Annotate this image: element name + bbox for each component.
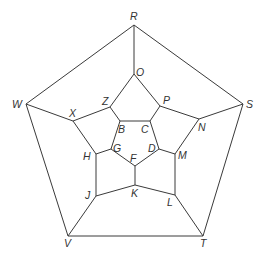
vertex-label-X: X — [68, 107, 77, 119]
edge-O-Z — [110, 74, 134, 107]
edge-W-X — [26, 104, 73, 121]
vertex-label-R: R — [130, 10, 138, 22]
edge-M-D — [159, 149, 175, 154]
vertex-label-O: O — [136, 66, 144, 78]
vertex-label-G: G — [113, 142, 121, 154]
edge-V-J — [68, 196, 96, 236]
edge-T-L — [175, 195, 203, 236]
vertex-label-T: T — [200, 237, 208, 249]
vertex-labels: ROZPBCGDFXNHMJKLWSVT — [12, 10, 253, 249]
edge-P-C — [150, 106, 160, 121]
vertex-label-S: S — [246, 98, 253, 110]
edge-P-N — [160, 106, 199, 119]
vertex-label-H: H — [83, 150, 91, 162]
vertex-label-F: F — [130, 152, 137, 164]
vertex-label-B: B — [118, 123, 125, 135]
vertex-label-L: L — [167, 196, 173, 208]
vertex-label-N: N — [198, 121, 206, 133]
vertex-label-M: M — [178, 149, 187, 161]
graph-edges — [26, 25, 243, 236]
edge-H-G — [96, 149, 111, 154]
vertex-label-Z: Z — [101, 95, 109, 107]
vertex-label-V: V — [64, 237, 72, 249]
edge-S-T — [203, 104, 243, 236]
edge-V-W — [26, 104, 68, 236]
vertex-label-K: K — [131, 187, 139, 199]
edge-K-L — [135, 185, 175, 195]
vertex-label-W: W — [12, 98, 23, 110]
vertex-label-J: J — [84, 189, 91, 201]
edge-S-N — [199, 104, 243, 119]
edge-R-S — [134, 25, 243, 104]
vertex-label-P: P — [163, 94, 170, 106]
dodecahedron-graph: ROZPBCGDFXNHMJKLWSVT — [0, 0, 268, 259]
edge-R-W — [26, 25, 134, 104]
edge-Z-X — [73, 107, 110, 121]
edge-O-P — [134, 74, 160, 106]
vertex-label-C: C — [141, 123, 149, 135]
edge-J-K — [96, 185, 135, 196]
edge-Z-B — [110, 107, 120, 121]
vertex-label-D: D — [148, 142, 156, 154]
